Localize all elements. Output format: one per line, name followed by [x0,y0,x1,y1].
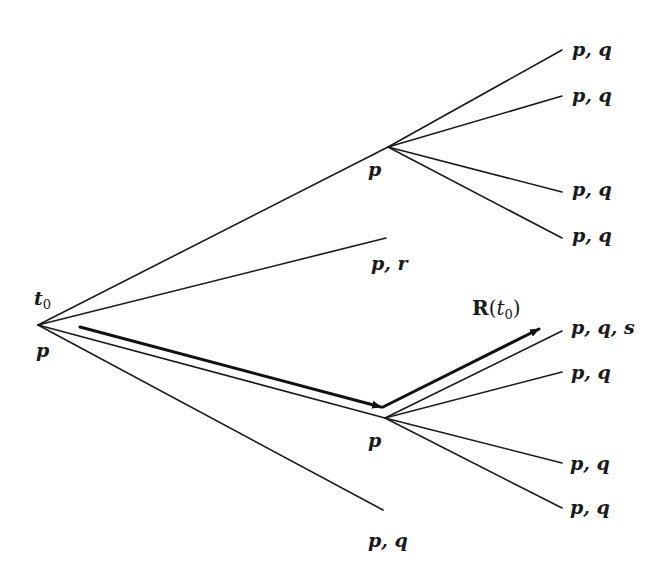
leaf-lower-3-label: p, q [570,452,610,474]
highlighted-path-label: R(t0) [472,296,521,322]
lower-node-edges [385,331,562,508]
edge-lower-to-leaf-2 [385,372,562,418]
path-segment-1-arrow [80,327,381,407]
highlighted-path [80,327,539,407]
edge-upper-to-leaf-4 [388,147,562,238]
upper-node-label: p [368,158,382,180]
root-time-label: t0 [34,287,51,312]
edge-root-to-middle [38,238,386,325]
edge-upper-to-leaf-3 [388,147,562,192]
leaf-upper-3-label: p, q [572,178,612,200]
edge-root-to-upper [38,147,388,325]
edge-root-to-bottom [38,325,383,510]
leaf-lower-4-label: p, q [570,496,610,518]
leaf-lower-2-label: p, q [571,361,611,383]
edge-root-to-lower [38,325,385,418]
root-proposition-label: p [36,339,50,361]
branching-time-diagram: t0 p p p p, q p, q p, q p, q p, r p, q, … [0,0,669,577]
leaf-bottom-label: p, q [368,529,408,551]
upper-node-edges [388,50,562,238]
leaf-middle-label: p, r [371,252,410,274]
lower-node-label: p [368,429,382,451]
leaf-upper-1-label: p, q [572,38,612,60]
edge-upper-to-leaf-1 [388,50,562,147]
path-segment-2-arrow [383,329,539,407]
edge-lower-to-leaf-3 [385,418,562,463]
leaf-lower-1-label: p, q, s [571,316,635,338]
edge-lower-to-leaf-4 [385,418,562,508]
edge-upper-to-leaf-2 [388,96,562,147]
leaf-upper-4-label: p, q [572,224,612,246]
edge-lower-to-leaf-1 [385,331,562,418]
leaf-upper-2-label: p, q [572,84,612,106]
